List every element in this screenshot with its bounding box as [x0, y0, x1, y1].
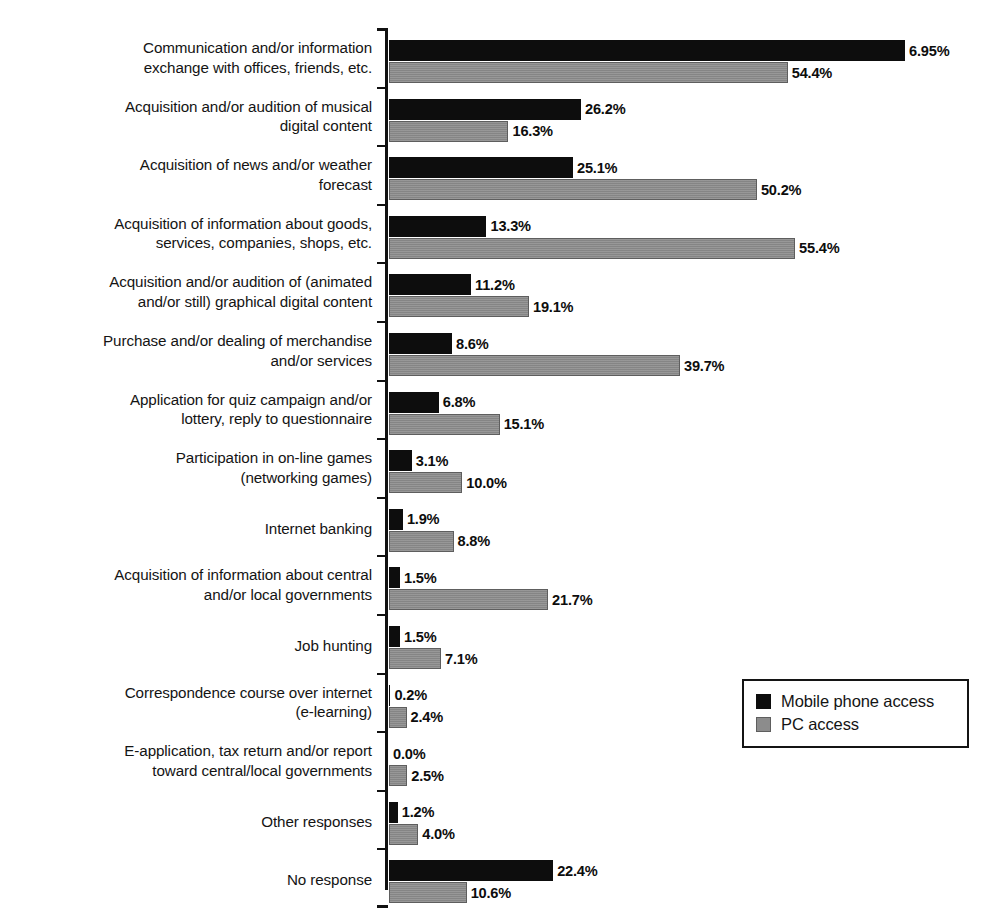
bar-mobile: 22.4%	[389, 860, 598, 881]
bar-group: 1.5%21.7%	[389, 567, 592, 610]
bar-value-label: 55.4%	[799, 240, 839, 256]
category-label: No response	[12, 870, 372, 890]
bar-rect-mobile	[389, 40, 905, 61]
category-label: E-application, tax return and/or report …	[12, 741, 372, 780]
bar-group: 1.9%8.8%	[389, 509, 490, 552]
legend-swatch-pc-icon	[756, 717, 771, 732]
category-label: Correspondence course over internet (e-l…	[12, 683, 372, 722]
axis-tick	[377, 28, 388, 31]
bar-value-label: 16.3%	[512, 123, 552, 139]
bar-pc: 10.0%	[389, 472, 507, 493]
axis-tick	[377, 87, 386, 89]
bar-rect-mobile	[389, 216, 486, 237]
bar-value-label: 13.3%	[490, 218, 530, 234]
bar-pc: 2.4%	[389, 707, 443, 728]
bar-pc: 21.7%	[389, 589, 592, 610]
bar-group: 25.1%50.2%	[389, 157, 801, 200]
bar-group: 1.2%4.0%	[389, 802, 455, 845]
bar-pc: 19.1%	[389, 296, 573, 317]
axis-tick	[377, 555, 386, 557]
bar-group: 8.6%39.7%	[389, 333, 724, 376]
bar-group: 22.4%10.6%	[389, 860, 598, 903]
axis-tick	[377, 790, 386, 792]
bar-mobile: 1.5%	[389, 567, 592, 588]
bar-rect-mobile	[389, 626, 400, 647]
bar-group: 0.0%2.5%	[389, 743, 444, 786]
bar-rect-pc	[389, 238, 795, 259]
bar-value-label: 10.6%	[471, 885, 511, 901]
axis-tick	[377, 204, 386, 206]
axis-tick	[377, 380, 386, 382]
bar-value-label: 19.1%	[533, 299, 573, 315]
category-label: Acquisition and/or audition of musical d…	[12, 97, 372, 136]
category-label: Acquisition and/or audition of (animated…	[12, 272, 372, 311]
bar-rect-pc	[389, 648, 441, 669]
category-label: Purchase and/or dealing of merchandise a…	[12, 331, 372, 370]
axis-tick	[377, 614, 386, 616]
bar-value-label: 2.4%	[411, 709, 443, 725]
bar-value-label: 8.8%	[458, 533, 490, 549]
axis-tick	[377, 673, 386, 675]
bar-rect-pc	[389, 882, 467, 903]
bar-rect-mobile	[389, 802, 398, 823]
bar-pc: 54.4%	[389, 62, 949, 83]
bar-mobile: 11.2%	[389, 274, 573, 295]
axis-tick	[377, 731, 386, 733]
bar-pc: 55.4%	[389, 238, 839, 259]
bar-value-label: 1.2%	[402, 804, 434, 820]
bar-mobile: 8.6%	[389, 333, 724, 354]
bar-pc: 8.8%	[389, 531, 490, 552]
axis-tick	[377, 262, 386, 264]
bar-value-label: 21.7%	[552, 592, 592, 608]
bar-value-label: 8.6%	[456, 336, 488, 352]
bar-group: 11.2%19.1%	[389, 274, 573, 317]
axis-tick	[377, 848, 386, 850]
bar-mobile: 6.95%	[389, 40, 949, 61]
bar-rect-mobile	[389, 860, 553, 881]
bar-value-label: 26.2%	[585, 101, 625, 117]
bar-value-label: 15.1%	[504, 416, 544, 432]
bar-value-label: 6.95%	[909, 43, 949, 59]
bar-rect-pc	[389, 62, 788, 83]
bar-rect-pc	[389, 355, 680, 376]
bar-rect-mobile	[389, 99, 581, 120]
plot-area: Communication and/or information exchang…	[0, 0, 989, 915]
bar-pc: 4.0%	[389, 824, 455, 845]
bar-value-label: 39.7%	[684, 358, 724, 374]
category-label: Communication and/or information exchang…	[12, 38, 372, 77]
bar-group: 6.95%54.4%	[389, 40, 949, 83]
bar-rect-pc	[389, 296, 529, 317]
bar-mobile: 3.1%	[389, 450, 507, 471]
category-label: Acquisition of information about central…	[12, 565, 372, 604]
bar-rect-mobile	[389, 392, 439, 413]
category-label: Application for quiz campaign and/or lot…	[12, 390, 372, 429]
bar-value-label: 1.5%	[404, 570, 436, 586]
bar-group: 13.3%55.4%	[389, 216, 839, 259]
category-label: Job hunting	[12, 636, 372, 656]
bar-mobile: 25.1%	[389, 157, 801, 178]
bar-value-label: 10.0%	[466, 475, 506, 491]
bar-pc: 50.2%	[389, 179, 801, 200]
bar-pc: 7.1%	[389, 648, 478, 669]
bar-rect-mobile	[389, 567, 400, 588]
bar-mobile: 0.0%	[389, 743, 444, 764]
bar-group: 0.2%2.4%	[389, 685, 443, 728]
bar-value-label: 54.4%	[792, 65, 832, 81]
bar-pc: 16.3%	[389, 121, 625, 142]
bar-value-label: 0.2%	[394, 687, 426, 703]
bar-mobile: 13.3%	[389, 216, 839, 237]
legend-item-pc-access: PC access	[756, 713, 957, 736]
bar-value-label: 1.9%	[407, 511, 439, 527]
bar-pc: 39.7%	[389, 355, 724, 376]
bar-value-label: 7.1%	[445, 651, 477, 667]
bar-pc: 10.6%	[389, 882, 598, 903]
bar-rect-pc	[389, 589, 548, 610]
bar-value-label: 1.5%	[404, 629, 436, 645]
axis-tick	[377, 438, 386, 440]
category-axis-line	[385, 28, 388, 890]
bar-rect-pc	[389, 121, 508, 142]
bar-rect-mobile	[389, 509, 403, 530]
bar-group: 1.5%7.1%	[389, 626, 478, 669]
category-label: Internet banking	[12, 519, 372, 539]
bar-rect-pc	[389, 531, 454, 552]
